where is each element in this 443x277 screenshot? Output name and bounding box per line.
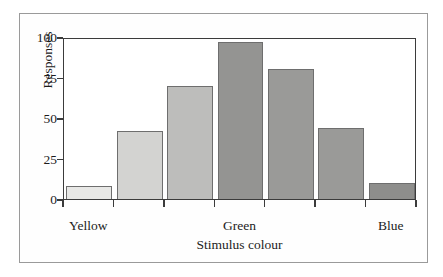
y-tick-label-25: 25 (14, 153, 57, 167)
x-tick-label-green: Green (223, 218, 256, 234)
bar-1 (117, 131, 163, 199)
x-axis-title: Stimulus colour (63, 237, 416, 253)
bar-series (64, 39, 415, 199)
y-tick-label-0: 0 (14, 193, 57, 207)
x-tick-5 (314, 200, 315, 207)
y-tick-label-50: 50 (14, 112, 57, 126)
y-tick-label-100: 100 (14, 31, 57, 45)
x-tick-3 (214, 200, 215, 207)
x-tick-4 (264, 200, 265, 207)
x-tick-label-yellow: Yellow (69, 218, 107, 234)
y-tick-label-75: 75 (14, 72, 57, 86)
bar-4 (268, 69, 314, 199)
bar-6 (369, 183, 415, 199)
chart-figure: Responses 0255075100 YellowGreenBlue Sti… (0, 0, 443, 277)
y-axis-title: Responses (40, 0, 56, 126)
x-tick-6 (365, 200, 366, 207)
plot-area (63, 38, 416, 200)
x-tick-1 (113, 200, 114, 207)
x-tick-2 (163, 200, 164, 207)
bar-3 (218, 42, 264, 199)
bar-2 (167, 86, 213, 199)
bar-5 (318, 128, 364, 199)
x-tick-0 (62, 200, 63, 207)
x-tick-7 (415, 200, 416, 207)
x-tick-label-blue: Blue (378, 218, 404, 234)
bar-0 (66, 186, 112, 199)
